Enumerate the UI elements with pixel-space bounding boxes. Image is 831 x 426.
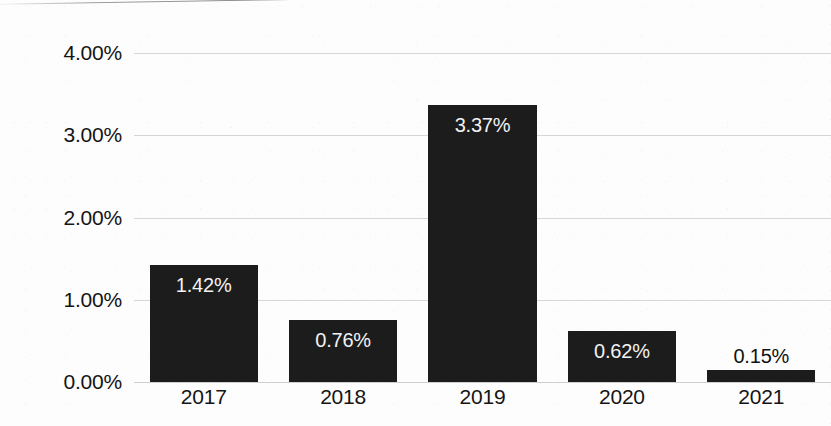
bar-value-label: 1.42% — [150, 274, 258, 297]
cropped-axis-title-clip — [0, 412, 831, 426]
y-axis: 0.00%1.00%2.00%3.00%4.00% — [0, 0, 122, 426]
x-axis-category-label: 2021 — [685, 385, 831, 409]
x-axis-category-label: 2020 — [546, 385, 698, 409]
y-axis-tick-label: 4.00% — [2, 41, 122, 65]
bar[interactable]: 0.76% — [289, 320, 397, 383]
y-axis-tick-label: 1.00% — [2, 288, 122, 312]
bar-group: 3.37%2019 — [428, 53, 536, 382]
bar[interactable]: 3.37% — [428, 105, 536, 382]
bar-value-label: 0.15% — [707, 345, 815, 368]
x-axis-category-label: 2019 — [406, 385, 558, 409]
x-axis-category-label: 2018 — [267, 385, 419, 409]
y-axis-tick-label: 0.00% — [2, 370, 122, 394]
plot-area: 1.42%20170.76%20183.37%20190.62%20200.15… — [134, 53, 831, 382]
gridline — [134, 382, 831, 383]
y-axis-tick-label: 3.00% — [2, 123, 122, 147]
bar-group: 0.15%2021 — [707, 53, 815, 382]
bar[interactable]: 1.42% — [150, 265, 258, 382]
bar-value-label: 0.62% — [568, 340, 676, 363]
x-axis-category-label: 2017 — [128, 385, 280, 409]
bar-group: 0.76%2018 — [289, 53, 397, 382]
bar[interactable]: 0.15% — [707, 370, 815, 382]
bar-group: 0.62%2020 — [568, 53, 676, 382]
bar[interactable]: 0.62% — [568, 331, 676, 382]
bar-group: 1.42%2017 — [150, 53, 258, 382]
bar-value-label: 0.76% — [289, 329, 397, 352]
bar-chart: 0.00%1.00%2.00%3.00%4.00% 1.42%20170.76%… — [0, 0, 831, 426]
y-axis-tick-label: 2.00% — [2, 206, 122, 230]
bar-value-label: 3.37% — [428, 114, 536, 137]
